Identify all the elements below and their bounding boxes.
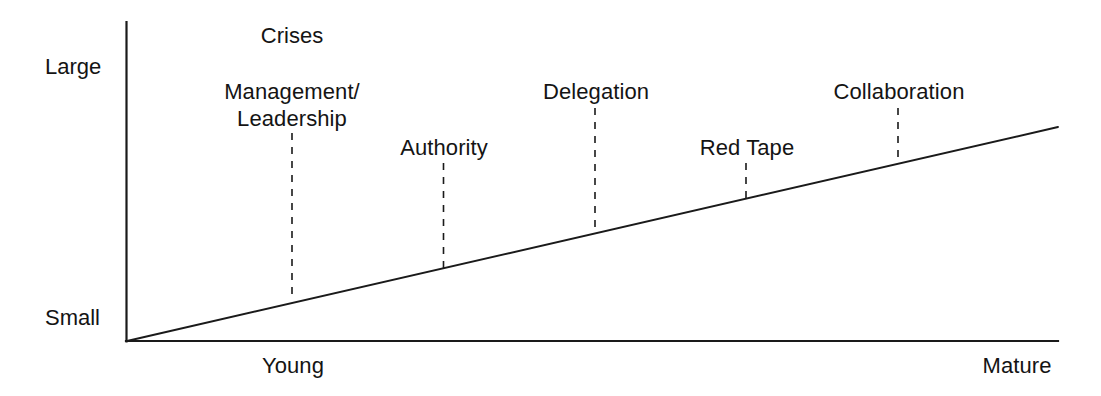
x-axis-label-mature: Mature (982, 352, 1051, 379)
growth-stages-chart: Crises Large Small Young Mature Manageme… (0, 0, 1101, 396)
crisis-label-delegation: Delegation (543, 78, 649, 105)
y-axis-label-large: Large (45, 53, 101, 80)
crisis-label-collaboration: Collaboration (834, 78, 965, 105)
crisis-label-red-tape: Red Tape (700, 134, 795, 161)
y-axis-label-small: Small (45, 304, 100, 331)
crisis-label-management-leadership: Management/ Leadership (224, 78, 360, 132)
crises-group-label: Crises (261, 22, 323, 49)
chart-canvas (0, 0, 1101, 396)
x-axis-label-young: Young (262, 352, 324, 379)
growth-trend-line (127, 127, 1058, 341)
crisis-label-authority: Authority (400, 134, 488, 161)
